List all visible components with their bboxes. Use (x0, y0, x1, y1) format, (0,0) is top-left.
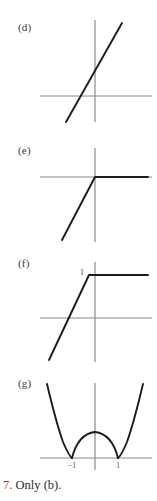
curve-d (66, 23, 122, 122)
plot-d (0, 0, 157, 125)
tick-label-g-minus-one: −1 (68, 461, 76, 470)
panel-d: (d) (0, 0, 157, 125)
figure-page: (d) (e) (f) 1 (g) (0, 0, 157, 501)
panel-e: (e) (0, 125, 157, 250)
plot-f: 1 (0, 250, 157, 375)
curve-g-right-branch (118, 384, 143, 458)
curve-e (62, 177, 148, 240)
plot-e (0, 125, 157, 250)
answer-number: 7. (3, 478, 12, 492)
panel-g: (g) −1 1 (0, 370, 157, 475)
panel-f: (f) 1 (0, 250, 157, 375)
answer-line: 7. Only (b). (3, 479, 61, 493)
answer-text: Only (b). (16, 478, 62, 492)
plot-g: −1 1 (0, 370, 157, 475)
tick-label-f-one: 1 (80, 268, 84, 277)
tick-label-g-one: 1 (116, 461, 120, 470)
curve-g-left-branch (47, 384, 72, 458)
